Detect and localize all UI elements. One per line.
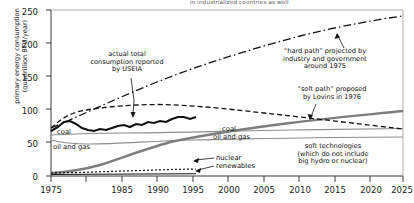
- label-oil-and-gas-left: oil and gas: [53, 143, 90, 151]
- y-tick-marks: [46, 10, 51, 176]
- arrowhead-actual: [131, 112, 136, 118]
- series-renewables-line: [51, 174, 196, 175]
- annotation-soft-path: “soft path” proposed by Lovins in 1976: [272, 86, 392, 101]
- annotation-actual-consumption: actual total consumption reported by USE…: [68, 51, 186, 74]
- energy-consumption-chart: in industrialized countries as well prim…: [0, 0, 414, 203]
- plot-canvas: [0, 0, 414, 203]
- x-tick-marks: [51, 176, 403, 182]
- label-coal-right: coal: [222, 125, 236, 133]
- label-nuclear: nuclear: [216, 154, 241, 162]
- annotation-hard-path: “hard path” projected by industry and go…: [255, 48, 395, 71]
- leader-actual: [131, 78, 134, 114]
- arrowhead-nuclear: [193, 158, 199, 163]
- annotation-soft-technologies: soft technologies (which do not include …: [268, 143, 398, 166]
- label-oil-and-gas-right: oil and gas: [213, 133, 250, 141]
- arrowhead-soft-path: [308, 114, 314, 120]
- label-renewables: renewables: [216, 162, 255, 170]
- series-actual-consumption-line: [51, 117, 196, 131]
- label-coal-left: coal: [57, 128, 71, 136]
